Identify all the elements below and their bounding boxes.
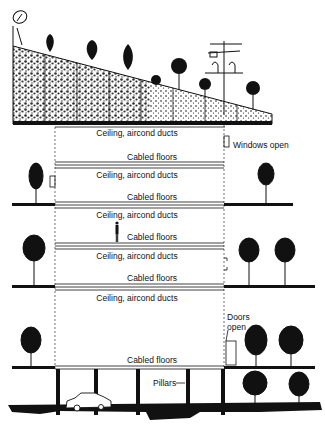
label-ceiling-4: Ceiling, aircond ducts <box>96 251 177 261</box>
label-cabled-3: Cabled floors <box>127 232 177 242</box>
ground-lines <box>12 203 315 369</box>
label-pillars: Pillars <box>153 378 176 388</box>
label-cabled-4: Cabled floors <box>127 273 177 283</box>
label-ceiling-1: Ceiling, aircond ducts <box>96 128 177 138</box>
door-opening <box>226 330 236 365</box>
label-ceiling-3: Ceiling, aircond ducts <box>96 210 177 220</box>
label-open: open <box>227 322 246 332</box>
person-icon <box>115 221 118 242</box>
label-cabled-1: Cabled floors <box>127 152 177 162</box>
roof-garden <box>13 46 272 127</box>
label-doors: Doors <box>227 312 250 322</box>
ground-base <box>8 402 322 420</box>
label-cabled-5: Cabled floors <box>127 355 177 365</box>
label-ceiling-5: Ceiling, aircond ducts <box>96 293 177 303</box>
label-cabled-2: Cabled floors <box>127 192 177 202</box>
satellite-dish-icon <box>11 9 29 46</box>
label-windows-open: Windows open <box>233 140 289 150</box>
label-ceiling-2: Ceiling, aircond ducts <box>96 170 177 180</box>
